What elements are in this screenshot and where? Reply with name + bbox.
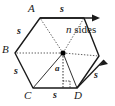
triangle-edge-center-D [63,53,77,88]
polygon-diagram-svg [0,0,115,106]
vertex-label-B: B [2,44,9,55]
center-point-dot [60,50,65,55]
regular-polygon-figure: A B C D s s s s s a n sides [0,0,115,106]
top-side-arrow [40,15,100,22]
side-label-lower-left: s [14,66,18,76]
vertex-label-C: C [24,90,31,101]
side-label-bottom: s [53,90,57,100]
side-label-top: s [60,4,64,14]
n-sides-text: sides [72,23,97,35]
radius-to-right [63,53,99,56]
right-arrow-shaft [77,60,104,88]
right-side-arrow [77,60,108,88]
radius-to-A [40,18,63,53]
side-label-upper-left: s [17,26,21,36]
top-arrow-head [92,15,100,22]
vertex-label-A: A [28,3,35,14]
side-label-right: s [94,70,98,80]
vertex-label-D: D [74,90,82,101]
apothem-label: a [55,64,60,73]
n-sides-annotation: n sides [66,24,96,35]
